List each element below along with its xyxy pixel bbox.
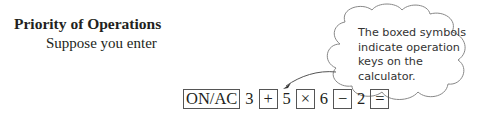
digit: 3 [245,89,253,109]
plus-key: + [259,89,278,109]
key-sequence: ON/AC 3 + 5 × 6 − 2 = [179,89,393,109]
digit: 2 [357,89,365,109]
on-ac-key: ON/AC [183,89,240,109]
minus-key: − [333,89,352,109]
digit: 6 [320,89,328,109]
callout-text: The boxed symbols indicate operation key… [358,26,478,84]
digit: 5 [283,89,291,109]
equals-key: = [370,89,389,109]
times-key: × [296,89,315,109]
